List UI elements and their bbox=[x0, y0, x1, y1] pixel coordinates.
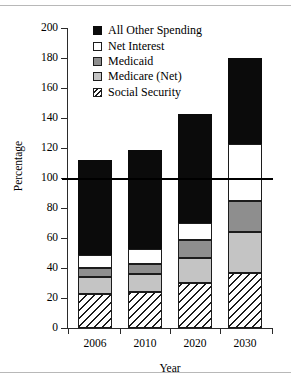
x-tick bbox=[220, 329, 221, 334]
y-tick-label-text: 20 bbox=[32, 292, 58, 303]
y-tick-label: 180 bbox=[28, 52, 58, 63]
y-tick bbox=[61, 28, 67, 29]
legend-label-social-sec: Social Security bbox=[108, 86, 181, 99]
legend-label-medicare: Medicare (Net) bbox=[108, 70, 182, 83]
y-tick-label-text: 120 bbox=[32, 142, 58, 153]
y-tick-label: 100 bbox=[28, 172, 58, 183]
y-tick-label: 80 bbox=[28, 202, 58, 213]
bar-segment-all-other-2010 bbox=[128, 150, 162, 249]
stacked-bar-chart: 200180160140120100806040200 Percentage 2… bbox=[0, 0, 291, 386]
bar-segment-medicare-2010 bbox=[128, 274, 162, 292]
x-axis-title: Year bbox=[67, 362, 273, 374]
y-axis-title: Percentage bbox=[12, 111, 24, 221]
legend-swatch-medicaid bbox=[93, 57, 102, 66]
y-tick bbox=[61, 208, 67, 209]
legend-item-all-other: All Other Spending bbox=[93, 23, 253, 38]
bar-segment-net-int-2020 bbox=[178, 223, 212, 240]
bar-segment-net-int-2006 bbox=[78, 255, 112, 269]
legend-label-medicaid: Medicaid bbox=[108, 55, 153, 68]
legend-swatch-medicare bbox=[93, 72, 102, 81]
y-tick bbox=[61, 238, 67, 239]
bar-segment-medicaid-2006 bbox=[78, 268, 112, 277]
y-tick bbox=[61, 118, 67, 119]
bar-segment-medicaid-2030 bbox=[228, 201, 262, 233]
legend-label-all-other: All Other Spending bbox=[108, 24, 202, 37]
x-tick-label-2020: 2020 bbox=[167, 337, 223, 350]
bar-segment-medicare-2020 bbox=[178, 258, 212, 284]
y-tick-label: 40 bbox=[28, 262, 58, 273]
legend-swatch-net-int bbox=[93, 42, 102, 51]
y-tick-label: 0 bbox=[28, 322, 58, 333]
y-tick bbox=[61, 328, 67, 329]
legend-item-social-sec: Social Security bbox=[93, 85, 253, 100]
legend-item-medicare: Medicare (Net) bbox=[93, 69, 253, 84]
bar-segment-medicare-2030 bbox=[228, 232, 262, 273]
y-tick-label-text: 160 bbox=[32, 82, 58, 93]
legend-swatch-social-sec bbox=[93, 88, 102, 97]
legend-item-net-int: Net Interest bbox=[93, 38, 253, 53]
x-tick bbox=[272, 329, 273, 334]
y-tick bbox=[61, 88, 67, 89]
y-tick-label-text: 60 bbox=[32, 232, 58, 243]
y-tick-label: 120 bbox=[28, 142, 58, 153]
x-tick bbox=[68, 329, 69, 334]
legend-item-medicaid: Medicaid bbox=[93, 54, 253, 69]
y-tick bbox=[61, 268, 67, 269]
y-tick-label: 140 bbox=[28, 112, 58, 123]
bar-segment-medicaid-2010 bbox=[128, 264, 162, 275]
x-tick-label-2010: 2010 bbox=[117, 337, 173, 350]
y-tick bbox=[61, 148, 67, 149]
bar-segment-social-sec-2020 bbox=[178, 283, 212, 328]
x-tick-label-2030: 2030 bbox=[217, 337, 273, 350]
y-tick-label-text: 140 bbox=[32, 112, 58, 123]
x-tick-label-2006: 2006 bbox=[67, 337, 123, 350]
y-tick-label: 20 bbox=[28, 292, 58, 303]
y-tick bbox=[61, 58, 67, 59]
y-tick-label-text: 40 bbox=[32, 262, 58, 273]
bar-segment-medicare-2006 bbox=[78, 277, 112, 294]
bar-segment-all-other-2020 bbox=[178, 114, 212, 224]
bar-segment-net-int-2010 bbox=[128, 249, 162, 264]
reference-line-100 bbox=[62, 178, 273, 180]
y-tick-label-text: 200 bbox=[32, 22, 58, 33]
x-tick bbox=[120, 329, 121, 334]
legend-swatch-all-other bbox=[93, 26, 102, 35]
bar-segment-social-sec-2010 bbox=[128, 292, 162, 328]
bar-segment-all-other-2006 bbox=[78, 160, 112, 255]
legend-label-net-int: Net Interest bbox=[108, 40, 164, 53]
bar-segment-social-sec-2030 bbox=[228, 273, 262, 329]
y-tick bbox=[61, 298, 67, 299]
chart-legend: All Other SpendingNet InterestMedicaidMe… bbox=[93, 23, 253, 100]
y-tick-label-text: 80 bbox=[32, 202, 58, 213]
bar-segment-net-int-2030 bbox=[228, 144, 262, 201]
y-tick-label: 160 bbox=[28, 82, 58, 93]
bar-segment-medicaid-2020 bbox=[178, 240, 212, 258]
y-tick-label: 200 bbox=[28, 22, 58, 33]
bar-segment-social-sec-2006 bbox=[78, 294, 112, 329]
y-tick-label-text: 0 bbox=[32, 322, 58, 333]
y-tick-label: 60 bbox=[28, 232, 58, 243]
y-tick-label-text: 180 bbox=[32, 52, 58, 63]
y-tick-label-text: 100 bbox=[32, 172, 58, 183]
x-tick bbox=[170, 329, 171, 334]
